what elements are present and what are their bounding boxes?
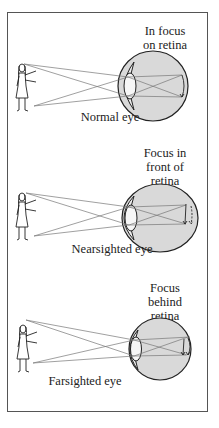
focus-label-line-2: behind [148,295,183,309]
caption-normal-eye: Normal eye [81,110,140,124]
focus-label-line-1: In focus [145,24,186,38]
panel-farsighted-eye: Focus behind retina Farsighted eye [17,281,191,388]
focus-label-line-2: front of [146,160,185,174]
caption-nearsighted-eye: Nearsighted eye [72,242,153,256]
person-figure [17,325,37,372]
panel-nearsighted-eye: Focus in front of retina Nearsighted eye [16,146,198,256]
eye-focus-diagram: In focus on retina Normal eye Focus in f… [0,0,219,428]
caption-farsighted-eye: Farsighted eye [48,374,122,388]
focus-label-line-1: Focus [150,281,180,295]
panel-normal-eye: In focus on retina Normal eye [16,24,188,124]
focus-label-line-1: Focus in [144,146,187,160]
focus-label-line-2: on retina [143,38,188,52]
person-figure [16,193,36,240]
person-figure [16,64,36,111]
